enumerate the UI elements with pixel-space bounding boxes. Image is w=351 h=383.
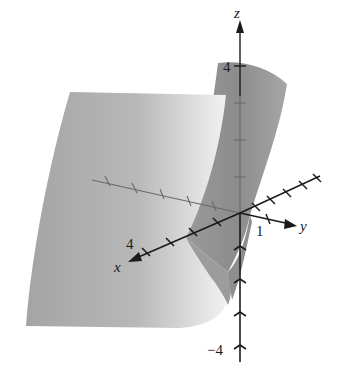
- z-axis-label: z: [233, 5, 240, 21]
- z-tick-label-bottom: −4: [207, 342, 223, 358]
- surface-front-sheet: [26, 92, 228, 328]
- surface-plot-figure: z 4 −4 y 1 x 4: [0, 0, 351, 383]
- y-axis-label: y: [298, 218, 307, 234]
- y-tick-label: 1: [256, 223, 264, 239]
- z-axis-arrow-icon: [236, 20, 244, 33]
- y-axis-arrow-icon: [284, 219, 297, 229]
- z-tick-label-top: 4: [223, 59, 231, 75]
- x-tick-label: 4: [126, 236, 134, 252]
- x-axis-label: x: [113, 259, 121, 275]
